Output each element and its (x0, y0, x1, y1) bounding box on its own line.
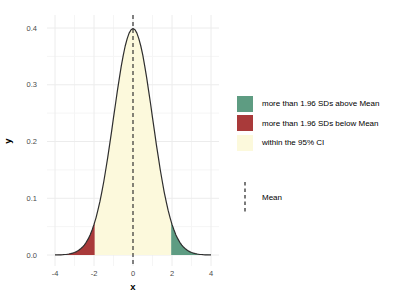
above-mean-swatch (237, 96, 253, 112)
legend-item-below: more than 1.96 SDs below Mean (237, 114, 379, 134)
mean-legend: Mean (237, 182, 282, 213)
x-axis-title: x (130, 281, 136, 292)
y-tick-label: 0.2 (27, 137, 37, 146)
x-tick-label: -2 (91, 269, 98, 278)
y-tick-label: 0.3 (27, 80, 37, 89)
legend-label: within the 95% CI (262, 138, 324, 147)
y-tick-label: 0.0 (27, 251, 37, 260)
legend-item-within: within the 95% CI (237, 133, 379, 153)
plot-area: -4-20240.00.10.20.30.4xy (0, 0, 406, 307)
y-tick-label: 0.4 (27, 24, 37, 33)
y-tick-label: 0.1 (27, 194, 37, 203)
x-tick-label: 2 (170, 269, 174, 278)
legend-label: more than 1.96 SDs above Mean (262, 99, 379, 108)
legend-item-above: more than 1.96 SDs above Mean (237, 94, 379, 114)
x-tick-label: 0 (131, 269, 135, 278)
within-ci-swatch (237, 135, 253, 151)
x-tick-label: 4 (209, 269, 213, 278)
dashed-line-icon (237, 182, 253, 213)
normal-distribution-figure: -4-20240.00.10.20.30.4xy more than 1.96 … (0, 0, 406, 307)
legend-label: more than 1.96 SDs below Mean (262, 119, 379, 128)
x-tick-label: -4 (52, 269, 59, 278)
y-axis-title: y (2, 138, 13, 144)
below-mean-swatch (237, 115, 253, 131)
mean-label: Mean (262, 193, 282, 202)
legend-item-mean: Mean (237, 182, 282, 213)
fill-legend: more than 1.96 SDs above Mean more than … (237, 94, 379, 153)
